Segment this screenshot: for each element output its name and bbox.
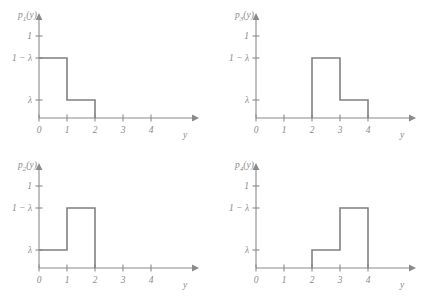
x-axis-name: y [182, 130, 188, 140]
panel-p2-plot: 0 1 2 3 4 λ 1 − λ 1 y p2(y) [0, 150, 216, 300]
panel-p1-title: p1(y) [17, 10, 37, 23]
figure-step-densities: 0 1 2 3 4 λ 1 − λ 1 y p1(y) [0, 0, 433, 305]
y-tick-label-one: 1 [27, 181, 32, 191]
x-axis-arrowhead [192, 115, 199, 122]
y-tick-label-one-minus-lambda: 1 − λ [229, 203, 249, 213]
y-tick-label-one-minus-lambda: 1 − λ [12, 203, 32, 213]
panel-p3: 0 1 2 3 4 λ 1 − λ 1 y p3(y) [217, 0, 433, 150]
y-tick-label-lambda: λ [27, 245, 32, 255]
x-tick-label-0: 0 [37, 125, 42, 135]
x-tick-label-1: 1 [282, 275, 287, 285]
y-tick-label-lambda: λ [244, 245, 249, 255]
y-tick-label-one: 1 [244, 31, 249, 41]
x-tick-label-2: 2 [310, 125, 315, 135]
step-curve-p1 [39, 58, 95, 118]
x-tick-label-3: 3 [337, 275, 343, 285]
x-tick-label-1: 1 [65, 125, 70, 135]
x-tick-label-4: 4 [366, 125, 371, 135]
panel-p4-plot: 0 1 2 3 4 λ 1 − λ 1 y p4(y) [217, 150, 433, 300]
x-tick-label-0: 0 [37, 275, 42, 285]
panel-p2-title: p2(y) [17, 160, 37, 173]
y-tick-label-one-minus-lambda: 1 − λ [229, 53, 249, 63]
x-tick-label-1: 1 [65, 275, 70, 285]
x-tick-label-4: 4 [149, 125, 154, 135]
panel-p1-plot: 0 1 2 3 4 λ 1 − λ 1 y p1(y) [0, 0, 216, 150]
x-tick-label-3: 3 [120, 125, 126, 135]
x-tick-label-3: 3 [120, 275, 126, 285]
x-axis-name: y [399, 130, 405, 140]
x-tick-label-1: 1 [282, 125, 287, 135]
panel-p2: 0 1 2 3 4 λ 1 − λ 1 y p2(y) [0, 150, 216, 300]
x-tick-label-4: 4 [366, 275, 371, 285]
y-tick-label-one: 1 [27, 31, 32, 41]
panel-p1: 0 1 2 3 4 λ 1 − λ 1 y p1(y) [0, 0, 216, 150]
x-tick-label-0: 0 [254, 275, 259, 285]
step-curve-p3 [312, 58, 368, 118]
x-axis-arrowhead [409, 115, 416, 122]
panel-p3-plot: 0 1 2 3 4 λ 1 − λ 1 y p3(y) [217, 0, 433, 150]
x-axis-name: y [399, 280, 405, 290]
y-tick-label-one-minus-lambda: 1 − λ [12, 53, 32, 63]
step-curve-p2 [39, 208, 95, 268]
y-tick-label-lambda: λ [27, 95, 32, 105]
panel-p4: 0 1 2 3 4 λ 1 − λ 1 y p4(y) [217, 150, 433, 300]
x-tick-label-4: 4 [149, 275, 154, 285]
x-tick-label-0: 0 [254, 125, 259, 135]
y-tick-label-lambda: λ [244, 95, 249, 105]
x-tick-label-2: 2 [93, 125, 98, 135]
panel-p4-title: p4(y) [234, 160, 254, 173]
x-tick-label-3: 3 [337, 125, 343, 135]
x-tick-label-2: 2 [93, 275, 98, 285]
y-tick-label-one: 1 [244, 181, 249, 191]
x-axis-name: y [182, 280, 188, 290]
x-axis-arrowhead [409, 265, 416, 272]
x-axis-arrowhead [192, 265, 199, 272]
x-tick-label-2: 2 [310, 275, 315, 285]
panel-p3-title: p3(y) [234, 10, 254, 23]
step-curve-p4 [312, 208, 368, 268]
